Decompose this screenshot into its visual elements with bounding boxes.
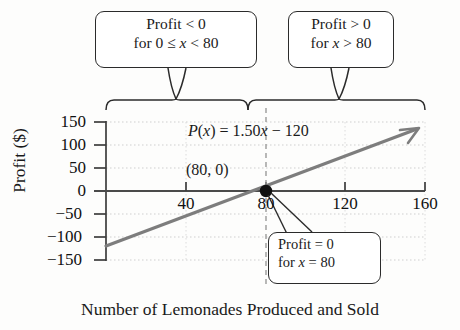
callout-positive-line2-pre: for: [311, 34, 333, 51]
stem-positive-left: [331, 68, 339, 99]
callout-negative-line1: Profit < 0: [103, 15, 249, 34]
x-tick-label-120: 120: [323, 194, 367, 214]
x-intercept-point-label: (80, 0): [186, 161, 229, 179]
x-tick-label-160: 160: [403, 194, 447, 214]
callout-negative-line2-pre: for 0 ≤: [134, 34, 180, 51]
callout-profit-zero: Profit = 0 for x = 80: [268, 232, 381, 284]
y-tick-label-0: 0: [32, 181, 86, 201]
brace-center-right: [248, 99, 339, 110]
x-tick-label-40: 40: [164, 194, 208, 214]
profit-line-chart-figure: Profit < 0 for 0 ≤ x < 80 Profit > 0 for…: [0, 0, 460, 330]
y-tick-label-100: 100: [32, 135, 86, 155]
stem-negative-right: [176, 68, 186, 99]
x-axis-title: Number of Lemonades Produced and Sold: [0, 299, 460, 320]
equation-label: P(x) = 1.50x − 120: [188, 122, 309, 140]
y-tick-label-neg150: −150: [28, 250, 82, 270]
callout-zero-line2-pre: for: [278, 254, 299, 270]
stem-positive-right: [339, 68, 349, 99]
callout-stems: [168, 68, 349, 99]
brace-right-segment: [339, 99, 425, 110]
callout-profit-negative: Profit < 0 for 0 ≤ x < 80: [95, 11, 257, 68]
callout-profit-positive: Profit > 0 for x > 80: [288, 11, 394, 68]
x-tick-label-80: 80: [244, 194, 288, 214]
y-tick-label-neg50: −50: [28, 204, 82, 224]
callout-positive-line1: Profit > 0: [296, 15, 386, 34]
callout-negative-line2-post: < 80: [186, 34, 218, 51]
callout-zero-line2-post: = 80: [305, 254, 335, 270]
callout-zero-line1: Profit = 0: [278, 236, 373, 254]
y-axis-title: Profit ($): [9, 111, 30, 211]
equation-function-name: P: [188, 122, 198, 139]
callout-positive-line2-post: > 80: [339, 34, 371, 51]
callout-zero-line2: for x = 80: [278, 254, 373, 272]
brace-center-left: [176, 99, 248, 110]
callout-negative-line2: for 0 ≤ x < 80: [103, 34, 249, 53]
brace-left-segment: [106, 99, 176, 110]
y-tick-label-neg100: −100: [28, 227, 82, 247]
y-tick-label-50: 50: [32, 158, 86, 178]
y-tick-label-150: 150: [32, 112, 86, 132]
equation-constant: − 120: [268, 122, 309, 139]
equation-variable-2: x: [261, 122, 268, 139]
callout-positive-line2: for x > 80: [296, 34, 386, 53]
stem-negative-left: [168, 68, 176, 99]
equation-equals-slope: = 1.50: [216, 122, 261, 139]
